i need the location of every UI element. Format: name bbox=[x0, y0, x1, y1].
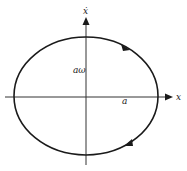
velocity-amplitude-label: aω bbox=[73, 65, 86, 75]
xdot-axis-label: ẋ bbox=[83, 6, 88, 16]
xdot-axis-arrowhead-icon bbox=[83, 17, 90, 25]
phase-portrait-diagram: x ẋ aω a bbox=[0, 0, 187, 171]
x-axis-arrowhead-icon bbox=[165, 94, 173, 101]
x-axis-label: x bbox=[176, 92, 181, 102]
position-amplitude-label: a bbox=[122, 96, 127, 106]
direction-arrow-bottom-icon bbox=[124, 139, 133, 146]
